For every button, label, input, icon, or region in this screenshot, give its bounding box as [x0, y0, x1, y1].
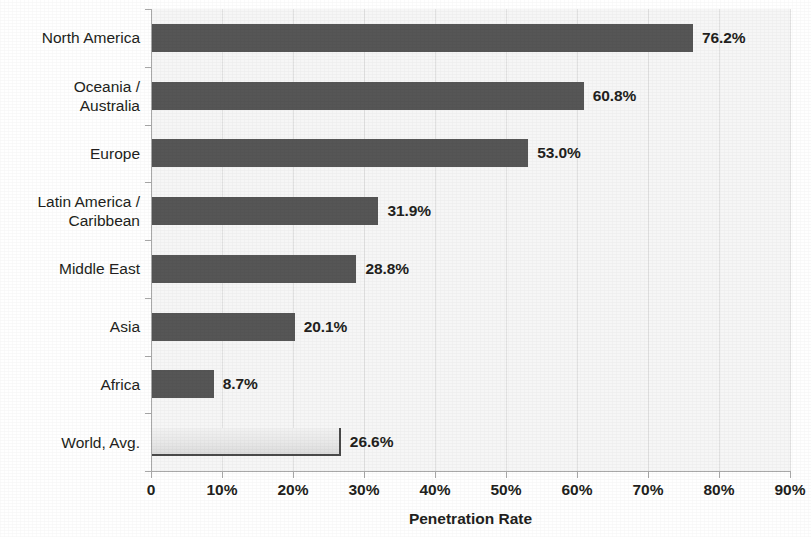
category-label-1: Oceania / Australia — [0, 77, 140, 115]
x-tick-mark-80 — [719, 472, 720, 478]
bar-world-avg — [152, 428, 341, 456]
gridline-20 — [293, 9, 294, 472]
category-label-7: World, Avg. — [0, 433, 140, 452]
bar-africa — [152, 370, 214, 398]
y-tick-mark-0 — [145, 9, 151, 10]
value-label-4: 28.8% — [365, 260, 408, 278]
x-tick-label-40: 40% — [419, 481, 450, 499]
value-label-3: 31.9% — [387, 202, 430, 220]
category-label-3: Latin America / Caribbean — [0, 192, 140, 230]
bar-north-america — [152, 24, 693, 52]
gridline-70 — [648, 9, 649, 472]
bar-europe — [152, 139, 528, 167]
x-axis-title: Penetration Rate — [151, 510, 790, 528]
plot-area — [151, 9, 790, 472]
gridline-50 — [506, 9, 507, 472]
x-tick-label-20: 20% — [277, 481, 308, 499]
x-tick-label-10: 10% — [206, 481, 237, 499]
gridline-10 — [222, 9, 223, 472]
x-tick-mark-90 — [790, 472, 791, 478]
y-tick-mark-2 — [145, 125, 151, 126]
chart-figure: 76.2%60.8%53.0%31.9%28.8%20.1%8.7%26.6% … — [0, 0, 811, 537]
bar-asia — [152, 313, 295, 341]
x-tick-mark-50 — [506, 472, 507, 478]
gridline-30 — [364, 9, 365, 472]
bar-middle-east — [152, 255, 356, 283]
category-label-2: Europe — [0, 144, 140, 163]
category-label-0: North America — [0, 28, 140, 47]
x-tick-label-0: 0 — [147, 481, 156, 499]
x-tick-label-50: 50% — [490, 481, 521, 499]
x-tick-label-70: 70% — [632, 481, 663, 499]
bar-oceania-australia — [152, 82, 584, 110]
x-tick-mark-70 — [648, 472, 649, 478]
y-tick-mark-8 — [145, 471, 151, 472]
category-label-4: Middle East — [0, 259, 140, 278]
x-tick-label-90: 90% — [774, 481, 805, 499]
value-label-6: 8.7% — [223, 375, 258, 393]
x-tick-label-60: 60% — [561, 481, 592, 499]
x-tick-mark-60 — [577, 472, 578, 478]
x-axis-line — [151, 471, 791, 472]
category-label-6: Africa — [0, 375, 140, 394]
category-label-5: Asia — [0, 317, 140, 336]
gridline-80 — [719, 9, 720, 472]
y-tick-mark-4 — [145, 240, 151, 241]
y-tick-mark-7 — [145, 413, 151, 414]
x-tick-mark-40 — [435, 472, 436, 478]
gridline-60 — [577, 9, 578, 472]
value-label-0: 76.2% — [702, 29, 745, 47]
value-label-2: 53.0% — [537, 144, 580, 162]
value-label-1: 60.8% — [593, 87, 636, 105]
y-tick-mark-5 — [145, 298, 151, 299]
y-tick-mark-3 — [145, 182, 151, 183]
x-tick-label-30: 30% — [348, 481, 379, 499]
gridline-90 — [790, 9, 791, 472]
x-tick-mark-30 — [364, 472, 365, 478]
y-tick-mark-1 — [145, 67, 151, 68]
bar-latin-america-caribbean — [152, 197, 378, 225]
gridlines — [151, 9, 790, 472]
gridline-40 — [435, 9, 436, 472]
x-tick-mark-10 — [222, 472, 223, 478]
y-axis-line — [151, 9, 152, 472]
value-label-5: 20.1% — [304, 318, 347, 336]
x-tick-mark-20 — [293, 472, 294, 478]
x-tick-mark-0 — [151, 472, 152, 478]
value-label-7: 26.6% — [350, 433, 393, 451]
y-tick-mark-6 — [145, 356, 151, 357]
x-tick-label-80: 80% — [703, 481, 734, 499]
